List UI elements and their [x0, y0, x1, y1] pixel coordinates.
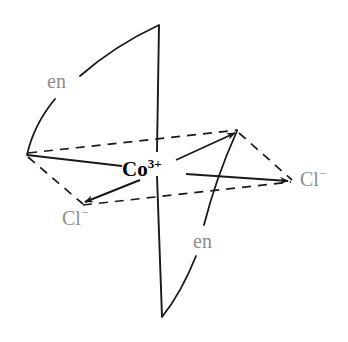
bond-metal-to-chloride-lower-left	[85, 180, 140, 202]
dashed-edge-left-to-top	[28, 130, 238, 153]
chloride-right-label: Cl−	[300, 167, 326, 189]
en-lower-right-label: en	[193, 231, 212, 251]
chloride-right-symbol: Cl	[300, 168, 319, 190]
en-arc-lower-right-segment-bottom	[162, 256, 196, 317]
chemical-structure-figure: Co3+ Cl− Cl− en en	[0, 0, 348, 342]
structure-bond-canvas	[0, 0, 348, 342]
bond-metal-to-chloride-right	[186, 174, 288, 181]
axial-bond-upper	[157, 25, 159, 152]
en-arc-upper-left-segment-bottom	[27, 99, 55, 155]
en-upper-left-label: en	[47, 71, 66, 91]
dashed-edge-left-to-chloride-lower-left	[28, 157, 83, 204]
metal-symbol: Co	[122, 157, 148, 181]
dashed-edge-upper-right-to-chloride-right	[239, 133, 292, 180]
bond-metal-to-left-nitrogen	[27, 155, 122, 166]
chloride-lower-left-symbol: Cl	[62, 207, 81, 229]
axial-bond-lower	[157, 176, 162, 317]
en-arc-upper-left-segment-top	[80, 25, 159, 76]
chloride-lower-left-label: Cl−	[62, 206, 88, 228]
metal-charge: 3+	[148, 156, 162, 171]
metal-center-label: Co3+	[122, 157, 162, 180]
chloride-lower-left-charge: −	[81, 205, 88, 220]
dashed-edge-chloride-lower-left-to-chloride-right	[83, 182, 291, 205]
chloride-right-charge: −	[319, 166, 326, 181]
